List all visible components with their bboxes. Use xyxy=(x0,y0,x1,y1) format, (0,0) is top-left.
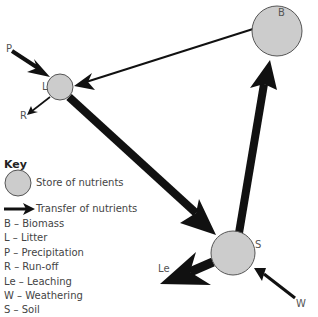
key-item-biomass: B – Biomass xyxy=(4,217,84,231)
arrow-weathering-to-soil xyxy=(254,268,295,298)
key-item-weathering: W – Weathering xyxy=(4,289,84,303)
label-biomass: B xyxy=(278,8,285,18)
store-soil xyxy=(211,231,255,275)
label-runoff: R xyxy=(20,111,27,121)
key-item-leaching: Le – Leaching xyxy=(4,275,84,289)
key-item-runoff: R – Run-off xyxy=(4,260,84,274)
key-store-label: Store of nutrients xyxy=(36,178,124,188)
arrow-litter-to-soil xyxy=(69,97,216,235)
key-transfer-label: Transfer of nutrients xyxy=(36,204,137,214)
arrow-litter-to-runoff xyxy=(27,97,50,115)
key-transfer-arrow-icon xyxy=(4,203,35,215)
label-leaching: Le xyxy=(158,264,170,274)
key-title: Key xyxy=(4,158,27,171)
key-legend-list: B – Biomass L – Litter P – Precipitation… xyxy=(4,217,84,317)
arrow-biomass-to-litter xyxy=(74,29,253,90)
key-item-litter: L – Litter xyxy=(4,231,84,245)
store-biomass xyxy=(252,6,302,56)
label-weathering: W xyxy=(296,299,306,309)
arrow-soil-to-biomass xyxy=(239,60,277,233)
arrow-precipitation-to-litter xyxy=(12,51,50,77)
label-litter: L xyxy=(42,82,48,92)
key-store-icon xyxy=(5,170,31,196)
store-litter xyxy=(47,74,73,100)
key-item-soil: S – Soil xyxy=(4,303,84,317)
label-precipitation: P xyxy=(6,44,12,54)
label-soil: S xyxy=(255,240,261,250)
key-item-precipitation: P – Precipitation xyxy=(4,246,84,260)
